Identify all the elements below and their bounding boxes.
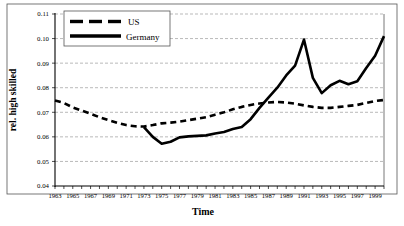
y-tick-label: 0.07 [37,109,49,116]
x-tick-label: 1985 [244,192,258,199]
chart-legend: US Germany [64,11,170,46]
x-tick-label: 1971 [120,192,133,199]
legend-label-us: US [128,17,140,27]
x-tick-label: 1963 [48,192,62,199]
legend-label-germany: Germany [126,32,160,42]
x-tick-label: 1979 [191,192,205,199]
x-tick-label: 1993 [315,192,329,199]
y-tick-label: 0.06 [37,133,49,140]
y-tick-label: 0.11 [37,10,49,17]
x-tick-label: 1981 [208,192,221,199]
x-tick-label: 1991 [297,192,310,199]
y-tick-label: 0.09 [37,60,49,67]
x-tick-label: 1967 [84,192,98,199]
x-tick-label: 1997 [351,192,365,199]
x-tick-label: 1973 [137,192,151,199]
line-chart: 0.110.100.090.080.070.060.050.04 1963196… [0,0,404,226]
x-tick-label: 1983 [226,192,240,199]
x-tick-label: 1977 [173,192,187,199]
y-tick-label: 0.05 [37,158,49,165]
chart-figure: 0.110.100.090.080.070.060.050.04 1963196… [0,0,404,226]
y-tick-label: 0.08 [37,84,49,91]
y-axis-title: rel. high skilled [8,68,18,131]
x-tick-label: 1965 [66,192,80,199]
x-tick-label: 1999 [369,192,383,199]
x-tick-label: 1969 [102,192,116,199]
y-tick-label: 0.10 [37,35,49,42]
x-tick-label: 1987 [262,192,276,199]
x-tick-label: 1989 [280,192,294,199]
x-axis-title: Time [192,206,215,217]
x-tick-label: 1995 [333,192,347,199]
x-tick-label: 1975 [155,192,169,199]
y-tick-label: 0.04 [37,182,49,189]
